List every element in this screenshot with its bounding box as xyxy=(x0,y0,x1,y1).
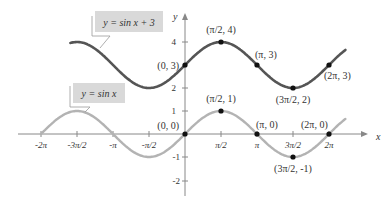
legend-upper: y = sin x + 3 xyxy=(92,11,163,48)
legend-upper-label: y = sin x + 3 xyxy=(102,17,155,28)
curve-sin-x-plus-3 xyxy=(70,42,345,88)
label-2pi-0: (2π, 0) xyxy=(301,119,328,131)
label-3pi2-2: (3π/2, 2) xyxy=(276,94,311,106)
label-pi2-1: (π/2, 1) xyxy=(206,93,236,105)
point-pi2-4 xyxy=(218,39,223,44)
x-tick-neg-pi-2: -π/2 xyxy=(142,140,157,150)
point-pi-3 xyxy=(254,62,259,67)
label-pi-0: (π, 0) xyxy=(256,119,278,131)
x-tick-neg-pi: -π xyxy=(109,140,117,150)
label-2pi-3: (2π, 3) xyxy=(324,70,351,82)
point-0-3 xyxy=(182,62,187,67)
y-tick-2: 2 xyxy=(172,83,177,93)
x-tick-pi: π xyxy=(255,140,260,150)
point-2pi-0 xyxy=(326,131,331,136)
y-tick-neg1: -1 xyxy=(173,152,181,162)
label-3pi2-neg1: (3π/2, -1) xyxy=(274,163,312,175)
label-pi2-4: (π/2, 4) xyxy=(206,24,236,36)
sine-shift-chart: x y 4 2 1 -1 -2 -2π -3π/2 -π -π/2 π/2 π … xyxy=(0,0,385,206)
point-0-0 xyxy=(182,131,187,136)
label-0-3: (0, 3) xyxy=(157,60,179,72)
x-tick-2pi: 2π xyxy=(324,140,334,150)
y-axis-arrow-icon xyxy=(182,13,188,20)
point-3pi2-2 xyxy=(290,85,295,90)
point-pi-0 xyxy=(254,131,259,136)
legend-lower: y = sin x xyxy=(70,83,125,112)
point-pi2-1 xyxy=(218,108,223,113)
y-tick-4: 4 xyxy=(172,37,177,47)
point-2pi-3 xyxy=(326,62,331,67)
y-tick-1: 1 xyxy=(172,106,177,116)
x-tick-neg-3pi-2: -3π/2 xyxy=(67,140,87,150)
label-pi-3: (π, 3) xyxy=(255,49,277,61)
point-3pi2-neg1 xyxy=(290,154,295,159)
x-axis-label: x xyxy=(375,131,381,142)
x-tick-neg-2pi: -2π xyxy=(35,140,47,150)
y-axis-label: y xyxy=(172,11,178,22)
x-tick-3pi-2: 3π/2 xyxy=(284,140,302,150)
x-axis-arrow-icon xyxy=(361,131,368,137)
point-labels: (0, 3) (π/2, 4) (π, 3) (3π/2, 2) (2π, 3)… xyxy=(157,24,350,175)
legend-lower-label: y = sin x xyxy=(81,88,117,99)
x-tick-pi-2: π/2 xyxy=(215,140,227,150)
y-tick-neg2: -2 xyxy=(173,176,181,186)
label-0-0: (0, 0) xyxy=(157,120,179,132)
